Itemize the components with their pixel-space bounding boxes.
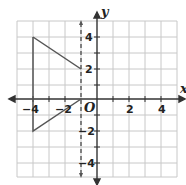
x-axis-label: x <box>179 81 186 96</box>
y-tick-4: 4 <box>85 31 93 44</box>
y-tick-2: 2 <box>85 63 93 76</box>
origin-label: O <box>84 100 96 115</box>
y-tick-neg4: −4 <box>78 157 95 170</box>
y-axis-label: y <box>100 4 110 19</box>
x-tick-neg2: −2 <box>55 103 72 116</box>
x-tick-2: 2 <box>126 103 134 116</box>
y-tick-neg2: −2 <box>78 125 95 138</box>
x-tick-neg4: −4 <box>22 103 39 116</box>
figure-lower-segments <box>33 37 81 131</box>
x-tick-4: 4 <box>158 103 166 116</box>
coordinate-plane: y x O −4 −2 2 4 4 2 −2 −4 <box>0 0 186 185</box>
